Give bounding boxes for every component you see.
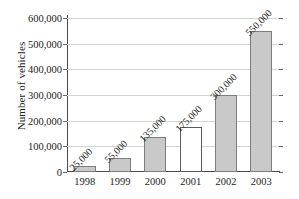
y-tick-mark-right bbox=[279, 172, 283, 173]
y-tick-mark-left bbox=[63, 18, 67, 19]
x-axis-tick-labels: 199819992000200120022003 bbox=[67, 176, 279, 194]
y-tick-mark-left bbox=[63, 95, 67, 96]
y-tick-label: 500,000 bbox=[6, 38, 62, 49]
y-axis-line bbox=[67, 15, 68, 172]
bar-chart: Number of vehicles 0100,000200,000300,00… bbox=[0, 0, 299, 199]
bar-2002 bbox=[215, 95, 237, 172]
x-tick-label-1998: 1998 bbox=[74, 176, 95, 187]
y-tick-label: 200,000 bbox=[6, 115, 62, 126]
gridline bbox=[67, 146, 279, 147]
x-axis-line bbox=[67, 171, 280, 172]
y-tick-mark-left bbox=[63, 44, 67, 45]
y-tick-label: 0 bbox=[6, 167, 62, 178]
gridline bbox=[67, 69, 279, 70]
y-tick-mark-left bbox=[63, 146, 67, 147]
bar-2003 bbox=[250, 31, 272, 172]
x-tick-label-2001: 2001 bbox=[180, 176, 201, 187]
bar-2000 bbox=[144, 137, 166, 172]
gridline bbox=[67, 121, 279, 122]
y-tick-mark-right bbox=[279, 146, 283, 147]
bar-2001 bbox=[180, 127, 202, 172]
y-tick-mark-right bbox=[279, 121, 283, 122]
y-tick-mark-right bbox=[279, 69, 283, 70]
y-tick-mark-left bbox=[63, 69, 67, 70]
x-tick-label-2002: 2002 bbox=[216, 176, 237, 187]
y-tick-mark-left bbox=[63, 121, 67, 122]
y-tick-label: 600,000 bbox=[6, 13, 62, 24]
x-tick-label-1999: 1999 bbox=[110, 176, 131, 187]
y-tick-mark-right bbox=[279, 18, 283, 19]
gridline bbox=[67, 44, 279, 45]
gridline bbox=[67, 95, 279, 96]
y-tick-mark-right bbox=[279, 95, 283, 96]
y-axis-tick-labels: 0100,000200,000300,000400,000500,000600,… bbox=[6, 0, 62, 199]
x-tick-label-2000: 2000 bbox=[145, 176, 166, 187]
x-tick-label-2003: 2003 bbox=[251, 176, 272, 187]
y-tick-mark-right bbox=[279, 44, 283, 45]
y-tick-label: 300,000 bbox=[6, 90, 62, 101]
y-tick-label: 400,000 bbox=[6, 64, 62, 75]
y-tick-label: 100,000 bbox=[6, 141, 62, 152]
y-tick-mark-left bbox=[63, 172, 67, 173]
gridline bbox=[67, 18, 279, 19]
plot-area: 25,00055,000135,000175,000300,000550,000 bbox=[67, 18, 279, 172]
